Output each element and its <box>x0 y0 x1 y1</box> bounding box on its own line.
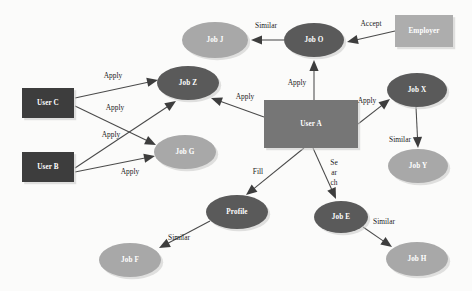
arrow-head-icon <box>413 137 422 148</box>
edge-label-e-userB-jobZ: Apply <box>102 130 121 139</box>
edge-e-userC-jobG <box>75 106 156 145</box>
edge-label-e-employer-jobO: Accept <box>361 19 383 28</box>
edge-e-jobE-jobH <box>363 227 392 247</box>
node-jobF[interactable]: Job F <box>99 243 163 279</box>
node-jobE[interactable]: Job E <box>314 201 370 235</box>
node-label-jobF: Job F <box>121 256 139 264</box>
node-label-employer: Employer <box>408 27 440 35</box>
edge-label-e-userA-profile: Fill <box>253 167 263 176</box>
arrow-head-icon <box>380 237 392 247</box>
node-jobH[interactable]: Job H <box>386 242 450 278</box>
node-label-jobG: Job G <box>175 148 194 156</box>
diagram-canvas: Job JJob OEmployerJob ZJob XUser CUser A… <box>0 0 472 291</box>
edge-label-e-userB-jobG: Apply <box>121 167 140 176</box>
node-label-userC: User C <box>37 99 59 107</box>
edge-e-userC-jobZ <box>75 78 158 98</box>
node-profile[interactable]: Profile <box>206 195 270 231</box>
node-label-jobX: Job X <box>408 86 427 94</box>
stacked-label-line: Se <box>330 158 338 167</box>
edge-e-jobX-jobY <box>413 107 422 148</box>
node-label-jobJ: Job J <box>206 36 223 44</box>
node-jobG[interactable]: Job G <box>154 135 218 171</box>
node-label-profile: Profile <box>226 208 247 216</box>
arrow-head-icon <box>143 154 155 163</box>
node-jobJ[interactable]: Job J <box>182 22 250 60</box>
stacked-label-line: ch <box>331 178 338 187</box>
arrow-head-icon <box>164 101 176 111</box>
edge-label-e-jobX-jobY: Similar <box>389 135 411 144</box>
edge-label-e-jobO-jobJ: Similar <box>255 21 277 30</box>
node-jobZ[interactable]: Job Z <box>157 66 221 102</box>
node-label-userB: User B <box>37 163 59 171</box>
arrow-head-icon <box>246 185 257 195</box>
edge-label-e-jobE-jobH: Similar <box>373 217 395 226</box>
node-label-jobY: Job Y <box>409 162 428 170</box>
node-label-jobE: Job E <box>332 213 350 221</box>
arrow-head-icon <box>251 35 262 44</box>
node-userB[interactable]: User B <box>22 152 76 184</box>
arrow-head-icon <box>347 35 359 44</box>
node-label-jobO: Job O <box>304 36 323 44</box>
arrow-head-icon <box>211 97 223 106</box>
node-label-userA: User A <box>300 120 322 128</box>
node-userA[interactable]: User A <box>264 100 360 150</box>
edge-label-e-userC-jobZ: Apply <box>104 71 123 80</box>
node-jobO[interactable]: Job O <box>284 23 346 59</box>
edge-label-e-userA-jobZ: Apply <box>236 92 255 101</box>
edge-label-e-userC-jobG: Apply <box>106 103 125 112</box>
node-label-jobZ: Job Z <box>179 79 197 87</box>
arrow-head-icon <box>378 99 390 109</box>
edge-e-jobO-jobJ <box>251 35 284 44</box>
edge-label-e-userA-jobO: Apply <box>288 78 307 87</box>
graph-svg: Job JJob OEmployerJob ZJob XUser CUser A… <box>0 0 472 291</box>
stacked-label-line: ar <box>331 168 337 177</box>
arrow-head-icon <box>309 60 318 71</box>
edge-e-userB-jobG <box>75 154 155 172</box>
nodes-layer: Job JJob OEmployerJob ZJob XUser CUser A… <box>22 15 455 279</box>
edge-e-userA-jobO <box>309 60 318 100</box>
stacked-label-search-label: Search <box>330 158 338 187</box>
node-jobY[interactable]: Job Y <box>388 149 450 185</box>
edge-label-e-profile-jobF: Similar <box>168 233 190 242</box>
node-employer[interactable]: Employer <box>395 15 455 49</box>
node-label-jobH: Job H <box>407 255 426 263</box>
node-jobX[interactable]: Job X <box>387 73 449 109</box>
edge-e-employer-jobO <box>347 31 395 44</box>
node-userC[interactable]: User C <box>22 88 76 120</box>
edge-label-e-userA-jobX: Apply <box>358 96 377 105</box>
arrow-head-icon <box>146 78 158 87</box>
